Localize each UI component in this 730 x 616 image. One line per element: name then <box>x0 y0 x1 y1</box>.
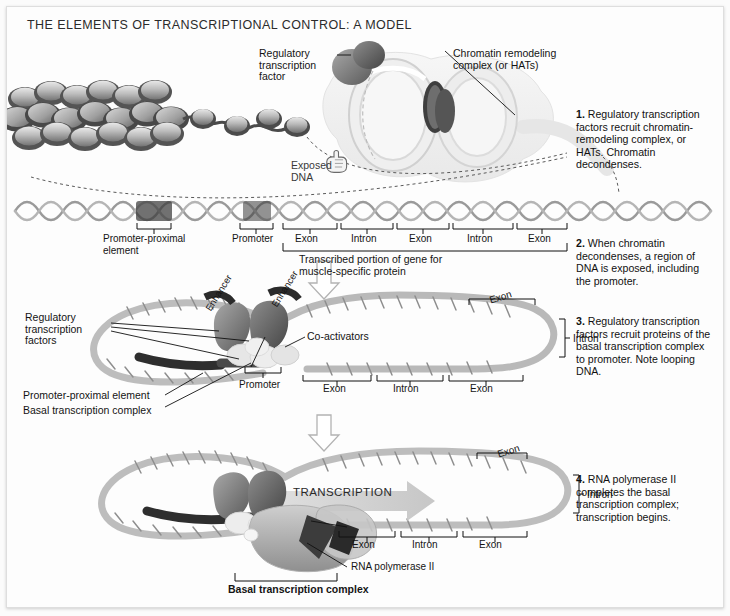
loop-label-exon-left-panel4: Exon <box>352 539 375 550</box>
step-1-text: 1. Regulatory transcription factors recr… <box>576 108 716 171</box>
gene-label-promoter-proximal-element: Promoter-proximal element <box>103 233 185 256</box>
loop-label-exon-bottom-panel3: Exon <box>470 383 493 394</box>
flow-arrow-2 <box>309 415 339 451</box>
gene-label-exon-3: Exon <box>528 233 551 244</box>
step-2-body: When chromatin decondenses, a region of … <box>576 237 699 287</box>
step-2-text: 2. When chromatin decondenses, a region … <box>576 237 716 287</box>
label-co-activators: Co-activators <box>307 331 369 343</box>
loop-label-exon-left-panel3: Exon <box>323 383 346 394</box>
figure-plate: THE ELEMENTS OF TRANSCRIPTIONAL CONTROL:… <box>6 6 724 608</box>
loop-label-exon-bottom-panel4: Exon <box>479 539 502 550</box>
step-4-text: 4. RNA polymerase II completes the basal… <box>576 473 716 523</box>
label-rna-polymerase-ii: RNA polymerase II <box>351 561 434 572</box>
label-exposed-dna: Exposed DNA <box>291 160 332 183</box>
condensed-chromatin <box>6 80 310 151</box>
label-promoter-proximal-element-panel3: Promoter-proximal element <box>23 390 150 402</box>
loop-label-intron-bottom-panel4: Intron <box>412 539 438 550</box>
label-promoter-panel3: Promoter <box>239 379 280 390</box>
dna-strand-panel2 <box>15 201 711 221</box>
label-regulatory-transcription-factor: Regulatory transcription factor <box>259 48 316 83</box>
figure-root: THE ELEMENTS OF TRANSCRIPTIONAL CONTROL:… <box>0 0 730 616</box>
step-3-body: Regulatory transcription factors recruit… <box>576 315 710 377</box>
label-transcription: TRANSCRIPTION <box>293 486 392 498</box>
step-3-text: 3. Regulatory transcription factors recr… <box>576 315 716 378</box>
caption-transcribed-portion: Transcribed portion of gene for muscle-s… <box>299 254 442 277</box>
label-basal-transcription-complex-panel4: Basal transcription complex <box>228 583 369 595</box>
gene-label-exon-1: Exon <box>295 233 318 244</box>
label-chromatin-remodeling-complex: Chromatin remodeling complex (or HATs) <box>453 48 556 71</box>
gene-label-exon-2: Exon <box>409 233 432 244</box>
label-basal-transcription-complex-panel3: Basal transcription complex <box>23 405 151 417</box>
step-2-number: 2. <box>576 237 585 249</box>
step-1-body: Regulatory transcription factors recruit… <box>576 108 700 170</box>
gene-label-promoter: Promoter <box>232 233 273 244</box>
gene-label-intron-1: Intron <box>351 233 377 244</box>
step-1-number: 1. <box>576 108 585 120</box>
loop-label-intron-bottom-panel3: Intron <box>393 383 419 394</box>
label-regulatory-transcription-factors: Regulatory transcription factors <box>25 312 82 347</box>
step-3-number: 3. <box>576 315 585 327</box>
step-4-body: RNA polymerase II completes the basal tr… <box>576 473 679 523</box>
gene-label-intron-2: Intron <box>467 233 493 244</box>
step-4-number: 4. <box>576 473 585 485</box>
